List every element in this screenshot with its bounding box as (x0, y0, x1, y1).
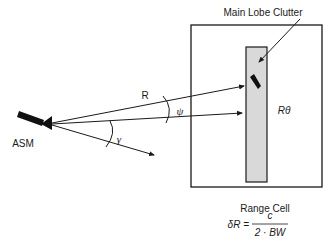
range-cell-title: Range Cell (240, 203, 289, 214)
missile-label: ASM (12, 138, 34, 149)
gamma-label: γ (117, 133, 122, 145)
main-lobe-clutter-label: Main Lobe Clutter (224, 7, 304, 18)
diagram-canvas: Main Lobe Clutter R ψ γ Rθ ASM Range Cel… (0, 0, 335, 243)
formula-lhs: δR = (228, 219, 250, 230)
clutter-strip (246, 47, 267, 182)
missile-icon (17, 111, 44, 126)
range-label: R (141, 90, 148, 101)
formula-denominator: 2 · BW (254, 227, 287, 238)
formula-numerator: c (268, 210, 273, 221)
boresight-line (52, 113, 242, 124)
psi-angle-arc (163, 96, 169, 123)
psi-label: ψ (177, 105, 184, 117)
cross-range-label: Rθ (278, 105, 291, 116)
velocity-line (52, 125, 154, 155)
missile-seeker-icon (41, 116, 52, 130)
gamma-angle-arc (106, 121, 113, 147)
